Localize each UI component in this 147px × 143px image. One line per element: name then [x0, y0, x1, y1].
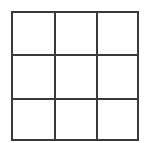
cell-1-0[interactable]: [13, 56, 56, 100]
cell-2-1[interactable]: [56, 100, 98, 139]
cell-0-2[interactable]: [98, 13, 137, 56]
cell-0-0[interactable]: [13, 13, 56, 56]
cell-1-1[interactable]: [56, 56, 98, 100]
cell-2-2[interactable]: [98, 100, 137, 139]
game-board: [11, 11, 139, 141]
cell-2-0[interactable]: [13, 100, 56, 139]
cell-0-1[interactable]: [56, 13, 98, 56]
cell-1-2[interactable]: [98, 56, 137, 100]
